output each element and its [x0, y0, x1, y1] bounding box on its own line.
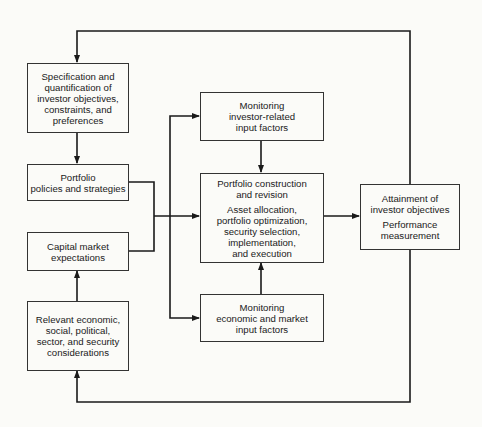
monitoring-economic-box: Monitoring economic and market input fac…: [200, 294, 324, 342]
box-detail: Performance: [383, 219, 438, 230]
box-text: investor-related: [229, 111, 295, 122]
box-title: investor objectives: [371, 204, 450, 215]
box-text: input factors: [236, 122, 288, 133]
box-text: Relevant economic,: [36, 314, 120, 325]
policies-box: Portfolio policies and strategies: [27, 164, 129, 201]
box-title: Attainment of: [382, 193, 439, 204]
box-text: considerations: [47, 347, 109, 358]
attainment-box: Attainment of investor objectives Perfor…: [360, 184, 460, 250]
box-text: preferences: [53, 115, 104, 126]
box-text: Portfolio: [60, 172, 95, 183]
to-monitoring-economic-arrow: [170, 216, 199, 318]
box-text: constraints, and: [44, 104, 112, 115]
box-text: Capital market: [47, 241, 109, 252]
box-text: Specification and: [41, 71, 114, 82]
construction-box: Portfolio construction and revision Asse…: [200, 173, 324, 263]
box-text: expectations: [51, 252, 105, 263]
policies-merge-line: [128, 182, 154, 251]
box-text: Monitoring: [240, 302, 285, 313]
box-title: Portfolio construction: [217, 178, 307, 189]
box-detail: and execution: [232, 248, 292, 259]
capital-market-box: Capital market expectations: [27, 232, 129, 271]
box-text: investor objectives,: [37, 93, 119, 104]
box-detail: security selection,: [224, 226, 300, 237]
box-text: input factors: [236, 324, 288, 335]
box-text: quantification of: [44, 82, 111, 93]
box-detail: Asset allocation,: [227, 204, 297, 215]
box-title: and revision: [236, 189, 288, 200]
box-detail: portfolio optimization,: [217, 215, 308, 226]
box-text: Monitoring: [240, 100, 285, 111]
box-detail: measurement: [381, 230, 440, 241]
monitoring-investor-box: Monitoring investor-related input factor…: [200, 92, 324, 141]
box-text: economic and market: [216, 313, 308, 324]
box-text: social, political,: [46, 325, 111, 336]
box-text: sector, and security: [37, 336, 120, 347]
relevant-considerations-box: Relevant economic, social, political, se…: [27, 301, 129, 371]
box-detail: implementation,: [228, 237, 296, 248]
to-monitoring-investor-arrow: [170, 116, 199, 216]
specification-box: Specification and quantification of inve…: [27, 63, 129, 133]
box-text: policies and strategies: [31, 183, 126, 194]
